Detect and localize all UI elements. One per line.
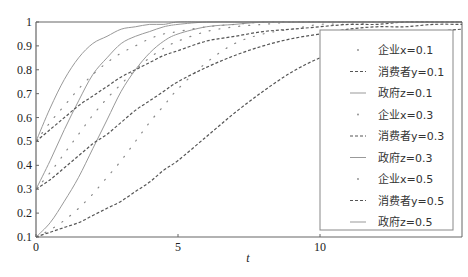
legend-label: 企业x=0.1	[378, 43, 433, 57]
y-tick-label: 0.9	[17, 39, 32, 53]
legend-label: 政府z=0.1	[378, 86, 432, 100]
legend: 企业x=0.1消费者y=0.1政府z=0.1企业x=0.3消费者y=0.3政府z…	[320, 30, 453, 230]
y-tick-label: 1	[26, 15, 32, 29]
chart: 0.10.20.30.40.50.60.70.80.910510t 企业x=0.…	[0, 0, 468, 277]
legend-label: 政府z=0.3	[378, 151, 432, 165]
y-tick-label: 0.7	[17, 87, 32, 101]
legend-label: 企业x=0.5	[378, 172, 433, 186]
legend-label: 消费者y=0.3	[378, 129, 444, 143]
y-tick-label: 0.3	[17, 182, 32, 196]
y-tick-label: 0.8	[17, 63, 32, 77]
legend-label: 企业x=0.3	[378, 108, 433, 122]
legend-dot-marker	[357, 114, 359, 116]
legend-dot-marker	[357, 49, 359, 51]
legend-label: 消费者y=0.1	[378, 65, 444, 79]
y-tick-label: 0.1	[17, 230, 32, 244]
y-tick-label: 0.5	[17, 134, 32, 148]
y-tick-label: 0.4	[17, 158, 32, 172]
legend-label: 消费者y=0.5	[378, 194, 444, 208]
legend-label: 政府z=0.5	[378, 215, 432, 229]
x-axis-label: t	[246, 251, 250, 265]
x-tick-label: 10	[314, 240, 326, 254]
x-tick-label: 0	[33, 240, 39, 254]
y-tick-label: 0.2	[17, 206, 32, 220]
x-tick-label: 5	[175, 240, 181, 254]
legend-dot-marker	[357, 178, 359, 180]
y-tick-label: 0.6	[17, 111, 32, 125]
